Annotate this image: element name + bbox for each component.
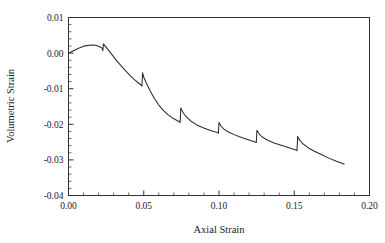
x-tick-label: 0.00 [60, 201, 77, 211]
y-axis-tick-labels: -0.04-0.03-0.02-0.010.000.01 [44, 13, 64, 201]
x-tick-label: 0.20 [361, 201, 378, 211]
y-tick-label: 0.00 [47, 49, 64, 59]
axis-ticks [69, 18, 370, 196]
y-axis-title: Volumetric Strain [5, 68, 16, 143]
y-tick-label: -0.04 [44, 191, 64, 201]
chart-plot-svg: 0.000.050.100.150.20 -0.04-0.03-0.02-0.0… [0, 0, 385, 243]
y-tick-label: -0.02 [44, 120, 64, 130]
chart-figure: 0.000.050.100.150.20 -0.04-0.03-0.02-0.0… [0, 0, 385, 243]
y-tick-label: 0.01 [47, 13, 64, 23]
x-tick-label: 0.15 [286, 201, 303, 211]
plot-frame [69, 18, 370, 196]
x-axis-title: Axial Strain [193, 224, 245, 235]
y-tick-label: -0.03 [44, 155, 64, 165]
x-axis-tick-labels: 0.000.050.100.150.20 [60, 201, 378, 211]
x-tick-label: 0.05 [135, 201, 152, 211]
data-series-volumetric-strain [69, 44, 345, 164]
x-tick-label: 0.10 [211, 201, 228, 211]
y-tick-label: -0.01 [44, 84, 64, 94]
